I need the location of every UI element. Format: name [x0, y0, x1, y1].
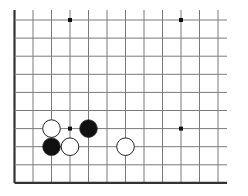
go-board: [0, 0, 248, 196]
star-point-icon: [68, 127, 72, 131]
white-stone[interactable]: [43, 120, 61, 138]
star-point-icon: [179, 18, 183, 22]
black-stone[interactable]: [43, 138, 61, 156]
black-stone[interactable]: [80, 120, 98, 138]
go-board-canvas[interactable]: [0, 0, 248, 196]
white-stone[interactable]: [117, 138, 135, 156]
board-grid: [15, 10, 228, 183]
white-stone[interactable]: [61, 138, 79, 156]
star-point-icon: [179, 127, 183, 131]
star-point-icon: [68, 18, 72, 22]
